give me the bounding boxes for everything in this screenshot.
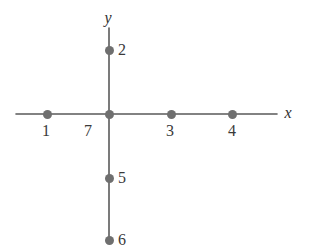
data-point-label: 2 xyxy=(118,42,126,58)
coordinate-axes-figure: 1734256 x y xyxy=(0,0,312,252)
data-point-dot xyxy=(43,110,52,119)
data-point-label: 6 xyxy=(118,232,126,248)
data-point-label: 4 xyxy=(228,123,236,139)
data-point-dot xyxy=(228,110,237,119)
data-point-label: 1 xyxy=(42,123,50,139)
data-point-label: 3 xyxy=(166,123,174,139)
data-point-dot xyxy=(105,174,114,183)
x-axis-label: x xyxy=(284,105,291,121)
data-point-dot xyxy=(105,110,114,119)
data-point-dot xyxy=(105,46,114,55)
data-point-dot xyxy=(105,236,114,245)
y-axis-label: y xyxy=(104,10,111,26)
data-point-dot xyxy=(167,110,176,119)
data-point-label: 7 xyxy=(84,123,92,139)
data-point-label: 5 xyxy=(118,170,126,186)
